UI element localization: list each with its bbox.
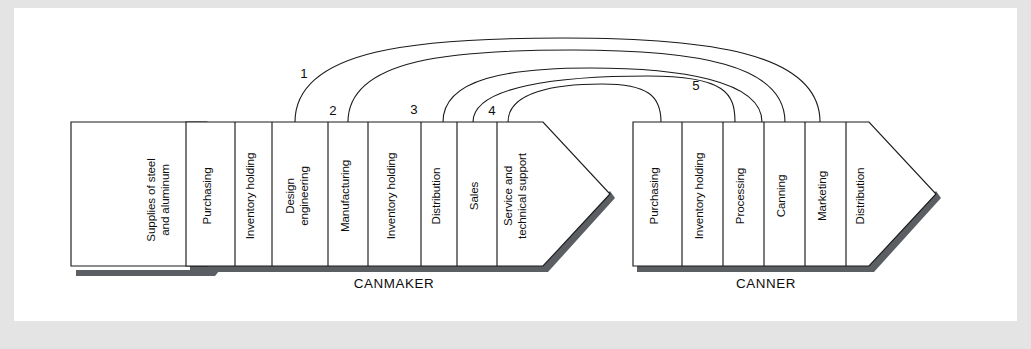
canmaker-segment-service-line-2: technical support [515,152,528,239]
canner-segment-canning: Canning [774,175,787,218]
linkage-number-1: 1 [300,66,307,81]
canmaker-segment-manufacturing: Manufacturing [338,160,351,232]
linkage-number-2: 2 [329,103,336,118]
canmaker-segment-inventory-holding-1: Inventory holding [243,153,256,240]
canmaker-segment-sales: Sales [467,181,480,210]
canmaker-segment-design-engineering-line-1: Design [283,178,296,214]
canmaker-segment-service-line-1: Service and [501,166,514,226]
canner-segment-inventory-holding: Inventory holding [692,153,705,240]
canner-segment-processing: Processing [733,168,746,224]
canner-segment-marketing: Marketing [815,171,828,221]
supply-label-line-2: and aluminum [158,164,171,236]
canmaker-segment-design-engineering-line-2: engineering [297,166,310,226]
value-chain-diagram: Supplies of steel and aluminum Purchasin… [0,0,1031,349]
canmaker-group-label: CANMAKER [354,276,434,291]
canner-segment-distribution: Distribution [853,168,866,225]
canmaker-segment-purchasing: Purchasing [200,167,213,224]
supply-label-line-1: Supplies of steel [144,158,157,241]
canner-group-label: CANNER [736,276,796,291]
linkage-number-4: 4 [488,103,495,118]
canmaker-segment-distribution: Distribution [429,168,442,225]
linkage-number-5: 5 [692,78,699,93]
canmaker-segment-inventory-holding-2: Inventory holding [384,153,397,240]
canner-segment-purchasing: Purchasing [647,167,660,224]
linkage-number-3: 3 [410,102,417,117]
diagram-page: Supplies of steel and aluminum Purchasin… [0,0,1031,349]
